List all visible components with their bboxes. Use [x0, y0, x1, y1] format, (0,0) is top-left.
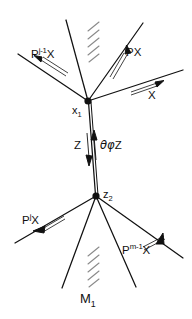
hatch-lower — [88, 247, 99, 287]
diagram-canvas: Pj-1X PX X x1 Z θφZ z2 PjX Pm-1X M1 — [0, 0, 192, 319]
label-p-tail: X — [134, 46, 142, 58]
label-z-tail: Z — [74, 139, 81, 151]
label-p-j-x: PjX — [22, 213, 39, 226]
label-p-base: P — [31, 48, 39, 60]
label-p-base: P — [22, 214, 30, 226]
vertex-dot-z2 — [92, 192, 99, 199]
label-p-base: P — [126, 46, 134, 58]
vertex-dot-x1 — [84, 97, 91, 104]
caption-subscript: 1 — [91, 299, 96, 309]
label-p-j-minus-1-x: Pj-1X — [31, 47, 54, 60]
edge-p-x — [88, 23, 143, 101]
label-vertex-subscript: 1 — [78, 110, 82, 119]
diagram-lines — [0, 0, 192, 319]
label-p-exponent: j-1 — [39, 46, 47, 55]
label-z: Z — [74, 140, 81, 152]
label-theta-phi-z: θφZ — [100, 140, 122, 152]
label-z-tail: Z — [115, 139, 122, 151]
label-p-m-minus-1-x: Pm-1X — [122, 243, 150, 256]
caption-base: M — [80, 291, 91, 306]
label-greek-theta-phi: θφ — [100, 138, 115, 152]
label-x: X — [148, 90, 156, 102]
label-vertex-subscript: 2 — [109, 194, 113, 203]
label-p-tail: X — [47, 48, 55, 60]
hatch-upper — [88, 22, 99, 62]
label-p-base: P — [122, 244, 130, 256]
edge-x — [88, 70, 183, 101]
label-vertex-z2: z2 — [103, 189, 113, 203]
label-p-x: PX — [126, 47, 141, 59]
label-p-tail: X — [143, 244, 151, 256]
label-x-tail: X — [148, 89, 156, 101]
edge-lower-steep — [62, 196, 96, 288]
label-vertex-x1: x1 — [72, 105, 82, 119]
figure-caption: M1 — [80, 292, 96, 308]
label-p-exponent: m-1 — [130, 242, 143, 251]
label-p-tail: X — [31, 214, 39, 226]
